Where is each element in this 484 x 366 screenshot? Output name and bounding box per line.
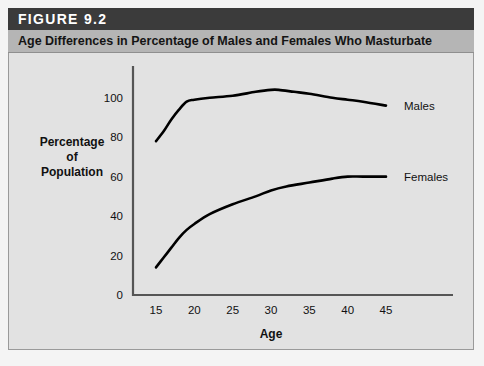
figure-number-band: FIGURE 9.2 xyxy=(8,8,474,30)
y-axis-title-line: of xyxy=(66,150,78,164)
x-tick-label: 15 xyxy=(150,304,163,316)
x-axis-ticks: 15202530354045 xyxy=(150,304,393,316)
chart-series: Females xyxy=(156,171,448,268)
line-chart: 02040608010015202530354045PercentageofPo… xyxy=(9,53,473,349)
y-tick-label: 0 xyxy=(117,289,123,301)
y-tick-label: 80 xyxy=(110,131,123,143)
series-line xyxy=(156,176,386,267)
y-axis-title-line: Population xyxy=(41,165,103,179)
chart-series: Males xyxy=(156,90,435,142)
y-tick-label: 60 xyxy=(110,171,123,183)
series-line xyxy=(156,90,386,142)
x-tick-label: 35 xyxy=(303,304,316,316)
x-tick-label: 30 xyxy=(265,304,278,316)
x-tick-label: 45 xyxy=(380,304,393,316)
y-tick-label: 20 xyxy=(110,250,123,262)
figure-root: FIGURE 9.2 Age Differences in Percentage… xyxy=(0,0,484,366)
y-axis-title: PercentageofPopulation xyxy=(40,135,105,179)
y-tick-label: 40 xyxy=(110,210,123,222)
x-axis-title: Age xyxy=(260,327,283,341)
chart-plot-area: 02040608010015202530354045PercentageofPo… xyxy=(9,53,473,349)
x-tick-label: 25 xyxy=(226,304,239,316)
figure-caption-label: Age Differences in Percentage of Males a… xyxy=(18,34,432,48)
y-tick-label: 100 xyxy=(104,92,123,104)
series-label: Females xyxy=(404,171,448,183)
y-axis-title-line: Percentage xyxy=(40,135,105,149)
x-tick-label: 20 xyxy=(188,304,201,316)
figure-caption-band: Age Differences in Percentage of Males a… xyxy=(8,30,474,53)
y-axis-ticks: 020406080100 xyxy=(104,92,123,301)
figure-number-label: FIGURE 9.2 xyxy=(18,11,107,27)
x-tick-label: 40 xyxy=(341,304,354,316)
series-label: Males xyxy=(404,100,435,112)
